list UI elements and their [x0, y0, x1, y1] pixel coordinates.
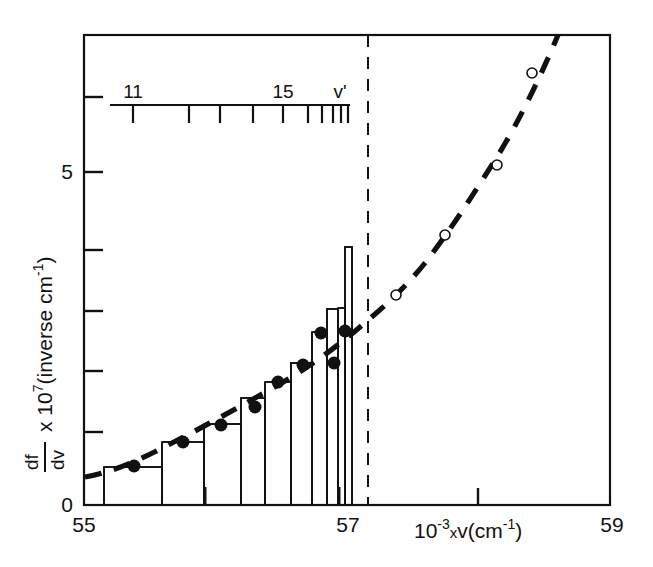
svg-text:x 107(inverse cm-1): x 107(inverse cm-1)	[30, 257, 56, 432]
bar-bin-3	[204, 424, 241, 505]
y-ticklabel-0: 0	[61, 493, 73, 516]
y-title-denominator: dv	[47, 449, 68, 470]
x-ticklabel-57: 57	[336, 513, 359, 536]
x-ticklabel-59: 59	[600, 513, 623, 536]
x-title-unit-open: (cm	[468, 519, 503, 542]
x-title-exponent: -3	[437, 516, 450, 532]
data-point-open	[492, 160, 502, 170]
x-title-unit-exponent: -1	[503, 516, 516, 532]
bar-bin-1	[104, 467, 162, 505]
data-point-open	[440, 230, 450, 240]
histogram-bars	[104, 247, 352, 505]
bar-bin-6	[291, 363, 312, 505]
x-title-mantissa: 10	[414, 519, 437, 542]
v-scale-axis-symbol: v'	[333, 81, 346, 102]
bar-bin-8	[327, 309, 338, 505]
plot-canvas: 5 0 55 57 59 10-3xv(cm-1) df dv x 107(in…	[0, 0, 653, 567]
y-axis-ticks	[84, 97, 103, 432]
data-point-filled	[328, 357, 341, 370]
dashed-fit-curve	[85, 35, 558, 477]
bar-bin-2	[162, 442, 204, 505]
figure-root: 5 0 55 57 59 10-3xv(cm-1) df dv x 107(in…	[0, 0, 653, 567]
x-ticklabel-55: 55	[72, 513, 95, 536]
x-title-symbol: v	[457, 519, 468, 542]
data-point-filled	[249, 401, 262, 414]
y-title-mantissa: 10	[33, 392, 56, 415]
bar-bin-9	[338, 308, 345, 505]
y-title-exponent: 7	[30, 384, 46, 392]
x-axis-title: 10-3xv(cm-1)	[414, 516, 522, 542]
y-title-rest-exponent: -1	[30, 263, 46, 276]
y-title-rest-close: )	[33, 257, 56, 264]
bar-bin-10	[345, 247, 352, 505]
y-title-times: x	[33, 421, 56, 432]
v-scale-label-11: 11	[123, 81, 143, 102]
filled-circle-points	[128, 325, 352, 473]
v-scale-label-15: 15	[272, 81, 293, 102]
secondary-v-scale: 11 15 v'	[110, 81, 350, 123]
data-point-filled	[272, 376, 285, 389]
bar-bin-7	[312, 332, 327, 505]
x-title-unit-close: )	[515, 519, 522, 542]
y-ticklabel-5: 5	[61, 160, 73, 183]
data-point-filled	[339, 325, 352, 338]
fit-curve-path	[85, 35, 558, 477]
data-point-filled	[177, 436, 190, 449]
bar-bin-4	[241, 398, 265, 505]
svg-text:10-3xv(cm-1): 10-3xv(cm-1)	[414, 516, 522, 542]
bar-bin-5	[265, 382, 291, 505]
y-title-numerator: df	[21, 453, 42, 470]
data-point-filled	[297, 359, 310, 372]
data-point-filled	[315, 327, 328, 340]
data-point-filled	[215, 419, 228, 432]
data-point-open	[527, 68, 537, 78]
baseline-stub-marks	[205, 487, 339, 505]
y-title-rest: (inverse cm	[33, 276, 56, 385]
y-title-fraction: df dv	[21, 442, 68, 472]
y-axis-title: df dv x 107(inverse cm-1)	[21, 257, 68, 472]
data-point-filled	[128, 460, 141, 473]
v-scale-ticks	[133, 105, 348, 123]
data-point-open	[391, 290, 401, 300]
open-circle-points	[391, 68, 537, 300]
